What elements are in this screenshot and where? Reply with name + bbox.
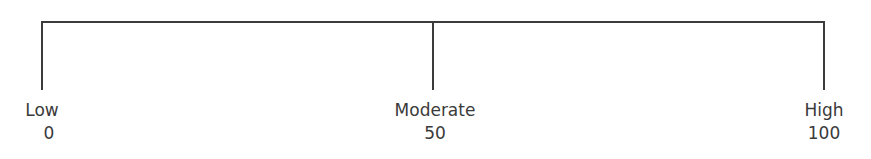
value-moderate: 50 [375, 122, 495, 144]
label-high: High [764, 99, 871, 121]
tick-low [41, 21, 43, 90]
value-low: 0 [0, 122, 109, 144]
tick-high [823, 21, 825, 90]
value-high: 100 [764, 122, 871, 144]
tick-moderate [432, 21, 434, 90]
label-low: Low [0, 99, 102, 121]
label-moderate: Moderate [375, 99, 495, 121]
